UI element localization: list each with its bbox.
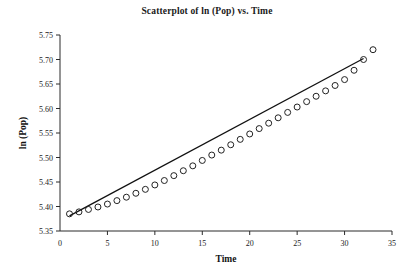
- x-tick-label: 5: [105, 239, 109, 248]
- data-point: [171, 173, 177, 179]
- data-point: [123, 194, 129, 200]
- data-point: [152, 182, 158, 188]
- x-tick-label: 10: [151, 239, 159, 248]
- x-tick-label: 0: [58, 239, 62, 248]
- y-tick-label: 5.40: [39, 203, 53, 212]
- data-point-group: [66, 47, 376, 217]
- data-point: [351, 67, 357, 73]
- data-point: [285, 109, 291, 115]
- data-point: [228, 142, 234, 148]
- data-point: [323, 88, 329, 94]
- data-point: [114, 198, 120, 204]
- data-point: [256, 126, 262, 132]
- data-point: [142, 186, 148, 192]
- data-point: [266, 120, 272, 126]
- data-point: [304, 99, 310, 105]
- y-axis-ticks: 5.355.405.455.505.555.605.655.705.75: [39, 31, 60, 236]
- data-point: [133, 190, 139, 196]
- data-point: [161, 178, 167, 184]
- data-point: [199, 157, 205, 163]
- y-axis-label: ln (Pop): [18, 117, 29, 149]
- y-tick-label: 5.60: [39, 105, 53, 114]
- y-tick-label: 5.45: [39, 178, 53, 187]
- x-axis-ticks: 05101520253035: [58, 231, 396, 248]
- data-point: [342, 77, 348, 83]
- data-point: [313, 93, 319, 99]
- x-tick-label: 35: [388, 239, 396, 248]
- scatterplot-figure: Scatterplot of ln (Pop) vs. Time 5.355.4…: [0, 0, 414, 271]
- data-point: [237, 136, 243, 142]
- plot-canvas: 5.355.405.455.505.555.605.655.705.75 051…: [0, 0, 414, 271]
- x-tick-label: 20: [246, 239, 254, 248]
- data-point: [190, 163, 196, 169]
- x-axis-label: Time: [216, 254, 237, 264]
- y-tick-label: 5.50: [39, 154, 53, 163]
- x-tick-label: 15: [198, 239, 206, 248]
- data-point: [332, 82, 338, 88]
- regression-line: [69, 59, 363, 216]
- x-tick-label: 25: [293, 239, 301, 248]
- data-point: [209, 152, 215, 158]
- data-point: [95, 204, 101, 210]
- data-point: [104, 201, 110, 207]
- data-point: [218, 147, 224, 153]
- data-point: [66, 211, 72, 217]
- x-tick-label: 30: [341, 239, 349, 248]
- data-point: [294, 104, 300, 110]
- data-point: [180, 168, 186, 174]
- data-point: [370, 47, 376, 53]
- y-tick-label: 5.70: [39, 56, 53, 65]
- y-tick-label: 5.35: [39, 227, 53, 236]
- data-point: [247, 131, 253, 137]
- y-tick-label: 5.65: [39, 80, 53, 89]
- y-tick-label: 5.55: [39, 129, 53, 138]
- y-tick-label: 5.75: [39, 31, 53, 40]
- data-point: [275, 115, 281, 121]
- data-point: [85, 206, 91, 212]
